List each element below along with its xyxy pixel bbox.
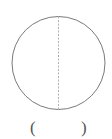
left-parenthesis: ( [30, 119, 36, 137]
circle-figure [0, 0, 112, 139]
right-parenthesis: ) [81, 119, 87, 137]
